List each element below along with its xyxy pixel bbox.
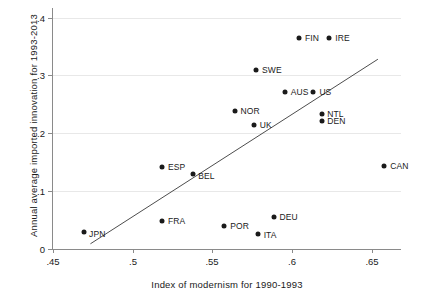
data-point	[232, 109, 237, 114]
y-tick-label: .4	[37, 13, 45, 24]
x-tick-label: .65	[365, 256, 378, 267]
data-point	[160, 164, 165, 169]
y-tick-label: .1	[37, 186, 45, 197]
data-point-label: FRA	[168, 216, 185, 226]
data-point	[254, 68, 259, 73]
data-point-label: US	[319, 87, 331, 97]
data-point-label: FIN	[305, 33, 319, 43]
plot-area	[53, 8, 401, 249]
data-point-label: UK	[260, 120, 272, 130]
data-point	[160, 218, 165, 223]
data-point	[271, 215, 276, 220]
data-point	[222, 223, 227, 228]
data-point-label: ITA	[264, 230, 277, 240]
y-axis-title: Annual average imported innovation for 1…	[28, 1, 39, 251]
data-point	[382, 163, 387, 168]
data-point	[191, 172, 196, 177]
data-point	[320, 112, 325, 117]
data-point	[297, 35, 302, 40]
data-point	[282, 89, 287, 94]
x-tick-label: .6	[288, 256, 296, 267]
data-point	[327, 35, 332, 40]
data-point	[255, 232, 260, 237]
data-point-label: NOR	[241, 106, 260, 116]
x-tick-label: .5	[129, 256, 137, 267]
x-axis-line	[53, 249, 401, 250]
x-axis-title: Index of modernism for 1990-1993	[53, 279, 401, 290]
data-point-label: JPN	[89, 229, 105, 239]
data-point	[320, 119, 325, 124]
y-tick-label: .2	[37, 128, 45, 139]
data-point	[251, 123, 256, 128]
y-tick-label: 0	[40, 244, 45, 255]
data-point	[311, 89, 316, 94]
data-point	[82, 229, 87, 234]
data-point-label: CAN	[390, 161, 408, 171]
y-tick-label: .3	[37, 70, 45, 81]
data-point-label: DEN	[327, 116, 345, 126]
scatter-plot-figure: Annual average imported innovation for 1…	[0, 0, 431, 303]
data-point-label: IRE	[335, 33, 349, 43]
data-point-label: DEU	[280, 212, 298, 222]
data-point-label: ESP	[168, 162, 185, 172]
x-tick-label: .45	[46, 256, 59, 267]
data-point-label: POR	[230, 221, 249, 231]
data-point-label: AUS	[291, 87, 309, 97]
data-point-label: SWE	[262, 65, 282, 75]
x-tick-label: .55	[205, 256, 218, 267]
data-point-label: BEL	[198, 171, 214, 181]
